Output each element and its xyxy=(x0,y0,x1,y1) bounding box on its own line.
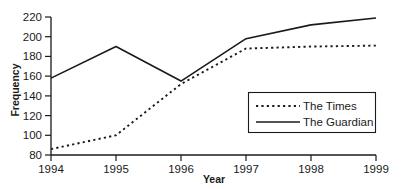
x-axis-title: Year xyxy=(203,173,225,185)
x-tick-label: 1999 xyxy=(363,163,389,175)
x-tick-label: 1994 xyxy=(38,163,64,175)
y-tick-label: 80 xyxy=(29,149,42,161)
x-tick-label: 1995 xyxy=(103,163,129,175)
x-tick-label: 1996 xyxy=(168,163,194,175)
chart-canvas: 220 200 180 160 140 120 100 80 1994 1995… xyxy=(0,0,401,189)
y-tick-label: 200 xyxy=(23,31,42,43)
legend-label-the-guardian: The Guardian xyxy=(303,116,373,128)
y-tick-label: 160 xyxy=(23,70,42,82)
y-tick-label: 140 xyxy=(23,90,42,102)
y-tick-label: 220 xyxy=(23,11,42,23)
y-tick-label: 180 xyxy=(23,50,42,62)
y-tick-label: 120 xyxy=(23,110,42,122)
x-tick-label: 1998 xyxy=(298,163,324,175)
legend: The Times The Guardian xyxy=(249,93,376,133)
y-tick-label: 100 xyxy=(23,129,42,141)
legend-label-the-times: The Times xyxy=(303,100,357,112)
y-axis-title: Frequency xyxy=(9,63,21,116)
line-chart: 220 200 180 160 140 120 100 80 1994 1995… xyxy=(0,0,401,189)
x-tick-label: 1997 xyxy=(233,163,259,175)
